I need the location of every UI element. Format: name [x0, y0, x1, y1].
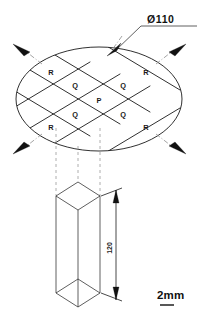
dim-arrowhead-top [113, 190, 119, 203]
region-label: R [143, 123, 149, 132]
region-label: Q [120, 110, 126, 119]
arrow-bottom-left [13, 134, 42, 154]
prism-specimen [56, 182, 100, 307]
arrow-bottom-left-head [13, 142, 30, 154]
region-label: Q [72, 110, 78, 119]
region-label: Q [72, 81, 78, 90]
prism-top-face [56, 182, 100, 210]
scale-bar: 2mm [157, 289, 184, 305]
diameter-callout-text: Ø110 [147, 13, 175, 25]
drawing-svg: R R R R Q Q Q Q P [0, 0, 202, 321]
diameter-leader-arrowhead [107, 43, 121, 56]
region-label: R [48, 123, 54, 132]
region-label: R [48, 68, 54, 77]
scale-bar-label: 2mm [157, 289, 184, 301]
disc-grid [0, 0, 202, 262]
dim-value-120: 120 [106, 242, 113, 254]
arrow-top-left-head [13, 44, 30, 56]
dim-ext-top [101, 188, 122, 196]
arrow-top-right-head [169, 44, 186, 56]
diameter-callout-leader [107, 26, 197, 56]
arrow-bottom-right [156, 134, 186, 154]
arrow-top-right [156, 44, 186, 64]
region-label: R [143, 68, 149, 77]
arrow-bottom-right-head [169, 142, 186, 154]
disc-region-labels: R R R R Q Q Q Q P [48, 68, 149, 132]
height-dimension: 120 [101, 188, 122, 301]
technical-drawing-canvas: R R R R Q Q Q Q P [0, 0, 202, 321]
grid-family-b [0, 50, 202, 262]
region-label-center: P [97, 96, 102, 105]
region-label: Q [120, 81, 126, 90]
dim-ext-bottom [101, 293, 122, 301]
arrow-top-left [13, 44, 42, 64]
